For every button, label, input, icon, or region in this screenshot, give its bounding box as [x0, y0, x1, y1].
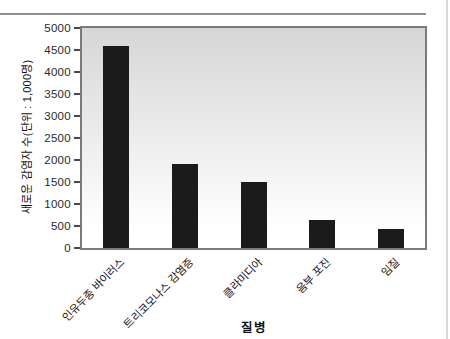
y-tick-mark	[74, 137, 80, 138]
y-tick-mark	[74, 181, 80, 182]
bar-3	[241, 182, 267, 248]
y-tick-mark	[74, 27, 80, 28]
y-tick-mark	[74, 203, 80, 204]
bar-2	[172, 164, 198, 248]
bar-5	[378, 229, 404, 248]
x-tick-label: 클라미디아	[218, 254, 265, 301]
x-tick-label: 임질	[377, 254, 402, 279]
bar-1	[103, 46, 129, 248]
top-divider-line	[0, 13, 426, 15]
y-tick-label: 3500	[31, 88, 71, 101]
bar-4	[309, 220, 335, 248]
x-axis-title: 질병	[189, 317, 319, 336]
y-tick-mark	[74, 49, 80, 50]
y-tick-label: 2000	[31, 154, 71, 167]
y-tick-mark	[74, 247, 80, 248]
y-tick-mark	[74, 71, 80, 72]
y-tick-label: 4500	[31, 44, 71, 57]
y-tick-label: 1500	[31, 176, 71, 189]
page: 새로운 감염자 수(단위 : 1,000명) 05001000150020002…	[0, 0, 450, 339]
plot-area	[80, 26, 427, 250]
y-tick-label: 4000	[31, 66, 71, 79]
y-tick-label: 1000	[31, 198, 71, 211]
y-tick-mark	[74, 159, 80, 160]
y-tick-mark	[74, 225, 80, 226]
y-tick-mark	[74, 115, 80, 116]
y-tick-label: 5000	[31, 22, 71, 35]
y-tick-label: 0	[31, 242, 71, 255]
y-tick-mark	[74, 93, 80, 94]
y-tick-label: 500	[31, 220, 71, 233]
x-tick-label: 트리코모나스 감염증	[119, 254, 196, 331]
page-edge-line	[446, 0, 448, 339]
x-tick-label: 음부 포진	[292, 254, 334, 296]
x-tick-label: 인유두종 바이러스	[58, 254, 128, 324]
y-tick-label: 3000	[31, 110, 71, 123]
y-tick-label: 2500	[31, 132, 71, 145]
